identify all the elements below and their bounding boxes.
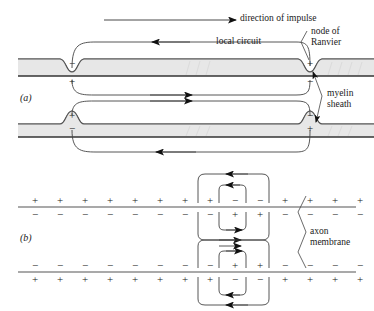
- lower-inside-sign-9: −: [257, 274, 263, 285]
- upper-inside-sign-2: −: [82, 209, 88, 220]
- label-node-of-ranvier-line1: node of: [311, 26, 340, 37]
- lower-outside-sign-11: −: [307, 260, 313, 271]
- panel-label-a: (a): [20, 92, 32, 103]
- upper-outside-sign-13: +: [357, 195, 363, 206]
- upper-inside-sign-6: −: [182, 209, 188, 220]
- lower-axon-node-right-sign: +: [307, 123, 313, 134]
- lower-outside-sign-9: +: [257, 260, 263, 271]
- lower-inside-sign-12: +: [332, 274, 338, 285]
- lower-loop-outside: [72, 101, 310, 116]
- lower-outside-sign-10: −: [282, 260, 288, 271]
- upper-axon-node-right-sign: +: [307, 58, 313, 69]
- upper-outside-sign-12: +: [332, 195, 338, 206]
- label-direction-of-impulse: direction of impulse: [240, 13, 317, 24]
- lower-inside-sign-6: +: [182, 274, 188, 285]
- upper-inside-sign-3: −: [107, 209, 113, 220]
- upper-axon-node-right-outer-sign: −: [307, 76, 313, 87]
- lower-outside-sign-7: −: [207, 260, 213, 271]
- figure-saltatory-conduction: direction of impulse local circuit node …: [0, 0, 374, 311]
- lower-inside-sign-11: +: [307, 274, 313, 285]
- lower-outside-sign-2: −: [82, 260, 88, 271]
- label-node-of-ranvier-line2: Ranvier: [311, 37, 341, 48]
- upper-outside-sign-1: +: [57, 195, 63, 206]
- upper-outside-sign-7: +: [207, 195, 213, 206]
- upper-inside-sign-11: −: [307, 209, 313, 220]
- upper-inside-sign-4: −: [132, 209, 138, 220]
- lower-outside-sign-8: +: [232, 260, 238, 271]
- upper-inside-sign-9: +: [257, 209, 263, 220]
- lower-inside-sign-7: +: [207, 274, 213, 285]
- label-myelin-line2: sheath: [327, 99, 351, 110]
- upper-inside-sign-5: −: [157, 209, 163, 220]
- label-axon-line2: membrane: [310, 237, 350, 248]
- lower-inside-sign-8: −: [232, 274, 238, 285]
- lower-inside-sign-1: +: [57, 274, 63, 285]
- upper-inside-sign-7: −: [207, 209, 213, 220]
- label-local-circuit: local circuit: [216, 36, 261, 47]
- upper-outside-sign-0: +: [32, 195, 38, 206]
- label-myelin-line1: myelin: [327, 88, 353, 99]
- upper-outside-sign-8: −: [232, 195, 238, 206]
- upper-outside-sign-9: −: [257, 195, 263, 206]
- panel-label-b: (b): [20, 232, 32, 243]
- upper-inside-sign-0: −: [32, 209, 38, 220]
- upper-outside-sign-10: +: [282, 195, 288, 206]
- leader-node-of-ranvier: [301, 31, 309, 60]
- upper-loop-inside: [72, 80, 310, 95]
- lower-axon-node-left-outer-sign: +: [69, 110, 75, 121]
- upper-inside-sign-1: −: [57, 209, 63, 220]
- lower-inside-sign-3: +: [107, 274, 113, 285]
- upper-inside-sign-13: −: [357, 209, 363, 220]
- lower-outside-sign-6: −: [182, 260, 188, 271]
- lower-inside-sign-2: +: [82, 274, 88, 285]
- upper-axon-node-left-outer-sign: +: [69, 76, 75, 87]
- upper-outside-sign-4: +: [132, 195, 138, 206]
- lower-inside-sign-13: +: [357, 274, 363, 285]
- lower-outside-sign-4: −: [132, 260, 138, 271]
- upper-outside-sign-5: +: [157, 195, 163, 206]
- lower-axon-node-right-outer-sign: −: [307, 110, 313, 121]
- lower-outside-sign-3: −: [107, 260, 113, 271]
- upper-outside-sign-2: +: [82, 195, 88, 206]
- lower-outside-sign-5: −: [157, 260, 163, 271]
- upper-axon-node-left-sign: −: [69, 58, 75, 69]
- lower-outside-sign-0: −: [32, 260, 38, 271]
- upper-outside-sign-11: +: [307, 195, 313, 206]
- upper-outside-sign-6: +: [182, 195, 188, 206]
- lower-outside-sign-1: −: [57, 260, 63, 271]
- upper-outside-sign-3: +: [107, 195, 113, 206]
- lower-inside-sign-10: +: [282, 274, 288, 285]
- lower-axon-node-left-sign: −: [69, 123, 75, 134]
- upper-inside-sign-8: +: [232, 209, 238, 220]
- lower-inside-sign-5: +: [157, 274, 163, 285]
- upper-inside-sign-10: −: [282, 209, 288, 220]
- lower-outside-sign-13: −: [357, 260, 363, 271]
- upper-inside-sign-12: −: [332, 209, 338, 220]
- lower-inside-sign-4: +: [132, 274, 138, 285]
- lower-outside-sign-12: −: [332, 260, 338, 271]
- label-axon-line1: axon: [310, 226, 328, 237]
- lower-inside-sign-0: +: [32, 274, 38, 285]
